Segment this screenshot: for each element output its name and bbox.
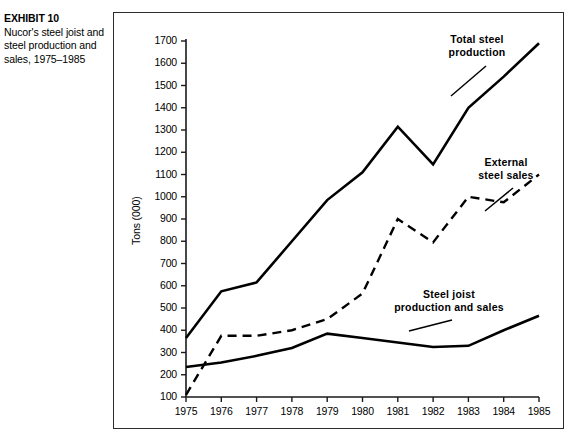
x-axis-tick-label: 1985 [519,405,559,417]
x-axis-tick-label: 1975 [166,405,206,417]
y-axis-title: Tons (000) [130,196,142,245]
y-axis-tick-label: 400 [143,323,177,335]
y-axis-tick-label: 200 [143,368,177,380]
y-axis-tick-label: 100 [143,390,177,402]
annotation-external-steel-sales: External steel sales [281,156,578,181]
series-line-steel-joist-production-and-sales [186,316,539,367]
annotation-external-steel-line1: External [281,156,578,169]
leader-line-total-steel [451,66,486,96]
exhibit-label: EXHIBIT 10 [4,12,108,26]
y-axis-tick-label: 900 [143,212,177,224]
annotation-steel-joist-line1: Steel joist [224,288,578,301]
exhibit-caption: EXHIBIT 10 Nucor's steel joist and steel… [4,12,108,66]
y-axis-tick-label: 600 [143,279,177,291]
y-axis-tick-label: 1500 [143,79,177,91]
x-axis-tick-label: 1981 [378,405,418,417]
annotation-steel-joist-line2: production and sales [224,301,578,314]
x-axis-tick-label: 1984 [484,405,524,417]
annotation-external-steel-line2: steel sales [281,169,578,182]
x-axis-tick-label: 1980 [343,405,383,417]
y-axis-tick-label: 700 [143,257,177,269]
chart-frame: Tons (000) 17001600150014001300120011001… [113,12,564,429]
y-axis-tick-label: 1100 [143,168,177,180]
y-axis-tick-label: 800 [143,234,177,246]
series-line-external-steel-sales [186,175,539,395]
leader-line-steel-joist [409,320,452,331]
chart-series-lines [186,43,539,395]
x-axis-tick-label: 1982 [413,405,453,417]
x-axis-tick-label: 1976 [201,405,241,417]
x-axis-tick-label: 1977 [237,405,277,417]
x-axis-tick-label: 1979 [307,405,347,417]
y-axis-tick-label: 1000 [143,190,177,202]
y-axis-tick-label: 1700 [143,34,177,46]
y-axis-tick-label: 1400 [143,101,177,113]
y-axis-tick-label: 300 [143,346,177,358]
x-axis-tick-label: 1978 [272,405,312,417]
annotation-steel-joist-production-and-sales: Steel joist production and sales [224,288,578,313]
y-axis-tick-label: 1200 [143,145,177,157]
annotation-total-steel-line2: production [252,46,578,59]
y-axis-tick-label: 500 [143,301,177,313]
exhibit-description: Nucor's steel joist and steel production… [4,26,108,67]
chart-plot-area: Tons (000) 17001600150014001300120011001… [114,13,565,430]
line-chart-svg [114,13,565,430]
annotation-total-steel-production: Total steel production [252,33,578,58]
annotation-total-steel-line1: Total steel [252,33,578,46]
x-axis-tick-label: 1983 [448,405,488,417]
y-axis-tick-label: 1300 [143,123,177,135]
y-axis-tick-label: 1600 [143,56,177,68]
